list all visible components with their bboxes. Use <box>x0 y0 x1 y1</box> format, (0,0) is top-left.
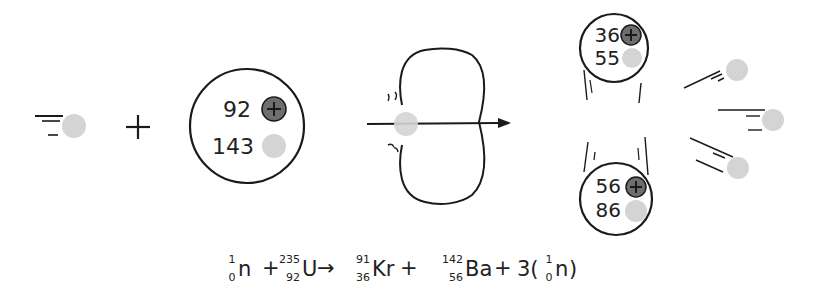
neutron-icon <box>625 200 647 222</box>
proton-icon <box>621 25 641 45</box>
eq-uranium-symbol: U <box>302 257 317 281</box>
krypton-nucleus: 36 55 <box>580 14 648 103</box>
plus-sign <box>126 115 150 139</box>
eq-neutron-in-atomic: 0 <box>229 271 236 284</box>
eq-neutron-out-symbol: n <box>555 257 568 281</box>
incoming-neutron <box>35 114 86 138</box>
neutron-icon <box>394 112 418 136</box>
uranium-proton-count: 92 <box>223 97 251 122</box>
neutron-icon <box>727 157 749 179</box>
eq-krypton-symbol: Kr <box>372 257 395 281</box>
compound-nucleus <box>367 48 511 204</box>
eq-neutron-out-mass: 1 <box>546 253 553 266</box>
proton-icon <box>262 97 286 121</box>
neutron-icon <box>726 59 748 81</box>
fission-equation: 1 0 n + 235 92 U → 91 36 Kr + 142 56 Ba … <box>229 253 578 284</box>
released-neutron-3 <box>690 138 749 179</box>
neutron-icon <box>262 134 286 158</box>
uranium-neutron-count: 143 <box>212 134 254 159</box>
barium-neutron-count: 86 <box>596 198 621 222</box>
neutron-icon <box>62 114 86 138</box>
eq-krypton-atomic: 36 <box>356 271 370 284</box>
proton-icon <box>626 177 646 197</box>
krypton-proton-count: 36 <box>595 23 620 47</box>
neutron-icon <box>622 48 642 68</box>
released-neutron-2 <box>718 109 784 131</box>
eq-close-paren: ) <box>569 257 577 281</box>
eq-uranium-mass: 235 <box>279 253 300 266</box>
barium-proton-count: 56 <box>596 174 621 198</box>
fission-diagram: 92 143 36 55 <box>0 0 825 295</box>
eq-coefficient: 3( <box>517 257 539 281</box>
eq-neutron-in-symbol: n <box>238 257 251 281</box>
eq-barium-mass: 142 <box>442 253 463 266</box>
eq-barium-atomic: 56 <box>449 271 463 284</box>
eq-plus-3: + <box>494 256 512 280</box>
eq-krypton-mass: 91 <box>356 253 370 266</box>
eq-plus-1: + <box>262 256 280 280</box>
eq-neutron-out-atomic: 0 <box>546 271 553 284</box>
barium-nucleus: 56 86 <box>580 137 652 235</box>
uranium-nucleus: 92 143 <box>190 69 304 183</box>
krypton-neutron-count: 55 <box>595 46 620 70</box>
eq-uranium-atomic: 92 <box>286 271 300 284</box>
eq-barium-symbol: Ba <box>465 257 492 281</box>
eq-plus-2: + <box>400 256 418 280</box>
eq-neutron-in-mass: 1 <box>229 253 236 266</box>
released-neutron-1 <box>684 59 748 88</box>
arrow-icon <box>367 123 498 124</box>
eq-arrow: → <box>317 256 335 280</box>
neutron-icon <box>762 109 784 131</box>
